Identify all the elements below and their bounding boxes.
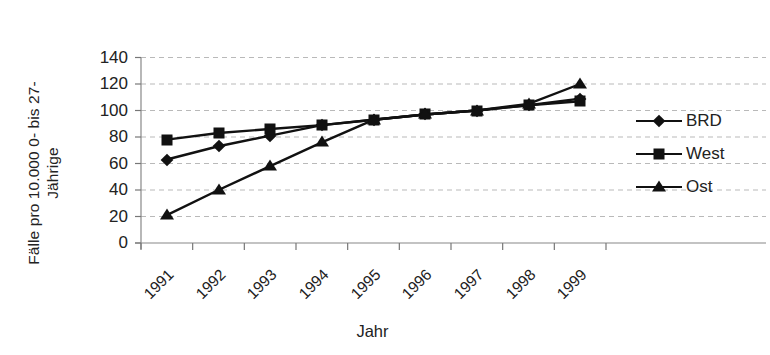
data-point-brd-1992 [212,140,225,153]
x-axis-title: Jahr [0,322,770,341]
legend-item-west[interactable]: West [636,137,766,170]
legend-square-icon [654,148,665,159]
data-point-west-1999 [575,96,586,107]
data-point-ost-1996 [418,108,432,119]
data-point-west-1994 [316,120,327,131]
data-point-ost-1995 [367,113,381,124]
legend-item-ost[interactable]: Ost [636,170,766,203]
chart-figure: Fälle pro 10.000 0- bis 27- Jährige 0204… [0,0,770,355]
legend-marker-triangle-icon [636,178,682,196]
data-point-west-1993 [265,124,276,135]
data-point-ost-1992 [212,184,226,195]
data-point-ost-1991 [160,209,174,220]
legend-marker-diamond-icon [636,112,682,130]
legend-triangle-icon [652,180,666,191]
data-point-ost-1998 [522,97,536,108]
data-point-ost-1994 [315,136,329,147]
legend-label: BRD [682,111,722,131]
legend-label: Ost [682,177,712,197]
data-point-ost-1997 [470,104,484,115]
data-point-ost-1999 [573,78,587,89]
x-axis-title-text: Jahr [356,322,388,341]
data-point-west-1992 [213,128,224,139]
data-point-brd-1991 [160,153,173,166]
legend-item-brd[interactable]: BRD [636,104,766,137]
data-point-ost-1993 [263,160,277,171]
data-point-west-1991 [161,134,172,145]
legend-diamond-icon [653,114,666,127]
chart-legend: BRDWestOst [636,104,766,203]
legend-label: West [682,144,724,164]
legend-marker-square-icon [636,145,682,163]
